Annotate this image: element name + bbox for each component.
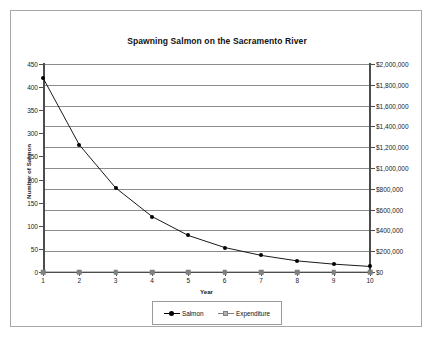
y-axis-right-tick-label: $1,800,000 <box>376 81 409 88</box>
y-axis-right-tick <box>371 251 375 252</box>
y-axis-right-tick-label: $1,600,000 <box>376 102 409 109</box>
data-point-salmon <box>368 264 372 268</box>
data-point-salmon <box>259 253 263 257</box>
data-point-salmon <box>186 233 190 237</box>
y-axis-right-tick <box>371 126 375 127</box>
y-axis-left-tick-label: 250 <box>0 153 38 160</box>
y-axis-right-tick <box>371 64 375 65</box>
data-point-expenditure <box>222 270 227 275</box>
series-line-salmon <box>43 78 370 267</box>
y-axis-right-tick <box>371 106 375 107</box>
y-axis-left-tick-label: 400 <box>0 84 38 91</box>
y-axis-right-tick-label: $1,000,000 <box>376 165 409 172</box>
data-point-salmon <box>295 259 299 263</box>
legend-item-salmon[interactable]: Salmon <box>164 309 204 317</box>
y-axis-right-tick-label: $0 <box>376 269 383 276</box>
y-axis-right-tick <box>371 230 375 231</box>
data-point-salmon <box>223 246 227 250</box>
data-point-salmon <box>77 143 81 147</box>
y-axis-right-tick <box>371 168 375 169</box>
data-point-expenditure <box>259 270 264 275</box>
y-axis-left-tick-label: 100 <box>0 222 38 229</box>
data-point-expenditure <box>368 270 373 275</box>
x-axis-tick-label: 6 <box>223 277 227 284</box>
x-axis-tick-label: 4 <box>150 277 154 284</box>
y-axis-right-tick <box>371 85 375 86</box>
legend-box: Salmon Expenditure <box>152 301 282 325</box>
x-axis-tick-label: 1 <box>41 277 45 284</box>
y-axis-right-tick-label: $800,000 <box>376 185 403 192</box>
y-axis-right-tick-label: $2,000,000 <box>376 61 409 68</box>
x-axis-tick-label: 7 <box>259 277 263 284</box>
data-point-expenditure <box>41 270 46 275</box>
y-axis-left-tick-label: 450 <box>0 61 38 68</box>
x-axis-tick-label: 10 <box>366 277 373 284</box>
data-point-expenditure <box>295 270 300 275</box>
legend-item-expenditure[interactable]: Expenditure <box>218 309 270 317</box>
y-axis-right-tick <box>371 189 375 190</box>
data-point-salmon <box>114 186 118 190</box>
y-axis-right-tick-label: $1,200,000 <box>376 144 409 151</box>
x-axis-tick-label: 2 <box>78 277 82 284</box>
x-axis-tick-label: 9 <box>332 277 336 284</box>
y-axis-right-tick-label: $1,400,000 <box>376 123 409 130</box>
legend-marker-salmon-icon <box>164 310 180 317</box>
legend-label-salmon: Salmon <box>182 310 204 317</box>
x-axis-tick-label: 8 <box>296 277 300 284</box>
legend-marker-expenditure-icon <box>218 310 234 317</box>
x-axis-tick-label: 3 <box>114 277 118 284</box>
y-axis-right-tick-label: $200,000 <box>376 248 403 255</box>
y-axis-left-tick-label: 350 <box>0 107 38 114</box>
chart-page: Spawning Salmon on the Sacramento River … <box>0 0 434 339</box>
y-axis-right-tick-label: $600,000 <box>376 206 403 213</box>
data-point-salmon <box>41 76 45 80</box>
data-point-expenditure <box>150 270 155 275</box>
y-axis-right-tick-label: $400,000 <box>376 227 403 234</box>
data-point-salmon <box>150 215 154 219</box>
chart-title: Spawning Salmon on the Sacramento River <box>0 36 434 46</box>
chart-legend: Salmon Expenditure <box>0 301 434 325</box>
series-lines <box>43 64 370 272</box>
data-point-salmon <box>332 262 336 266</box>
y-axis-left-tick-label: 150 <box>0 199 38 206</box>
y-axis-left-tick-label: 200 <box>0 176 38 183</box>
y-axis-left-tick-label: 50 <box>0 245 38 252</box>
data-point-expenditure <box>77 270 82 275</box>
data-point-expenditure <box>186 270 191 275</box>
x-axis-title: Year <box>43 288 370 295</box>
x-axis-tick-label: 5 <box>187 277 191 284</box>
data-point-expenditure <box>113 270 118 275</box>
plot-area <box>43 64 370 272</box>
y-axis-right-tick <box>371 210 375 211</box>
data-point-expenditure <box>331 270 336 275</box>
y-axis-left-tick-label: 0 <box>0 269 38 276</box>
y-axis-right-tick <box>371 147 375 148</box>
legend-label-expenditure: Expenditure <box>236 310 270 317</box>
y-axis-left-tick-label: 300 <box>0 130 38 137</box>
